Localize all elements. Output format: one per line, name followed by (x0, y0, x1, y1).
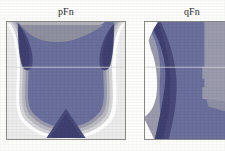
contour-panel-qfn (144, 21, 225, 140)
panel-title-qfn: qFn (144, 6, 225, 17)
panel-title-pfn: pFn (6, 6, 126, 17)
contour-plot-qfn (145, 22, 225, 139)
contour-block-upper-right-qfn (204, 22, 225, 68)
contour-block-middle-right-qfn (204, 65, 225, 100)
contour-panel-pfn (6, 21, 126, 140)
figure-container: pFn (0, 0, 225, 151)
contour-plot-pfn (7, 22, 125, 139)
